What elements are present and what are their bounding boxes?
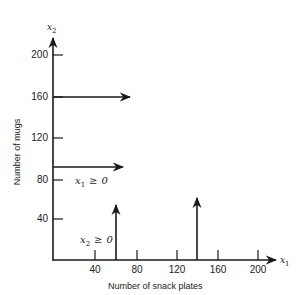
y-axis-variable: x2 (47, 22, 57, 35)
constraint-diagram (0, 0, 303, 295)
x-tick-label-120: 120 (162, 265, 192, 275)
x-tick-label-160: 160 (203, 265, 233, 275)
y-ticks (53, 55, 63, 219)
y-axis-title: Number of mugs (12, 107, 22, 197)
y-tick-label-200: 200 (18, 50, 48, 60)
annotation-x1-nonneg: x1≥0 (75, 175, 108, 189)
y-tick-label-80: 80 (18, 175, 48, 185)
y-tick-label-160: 160 (18, 92, 48, 102)
annotation-x2-nonneg: x2≥0 (80, 234, 113, 248)
y-tick-label-40: 40 (18, 214, 48, 224)
x-axis-variable: x1 (280, 255, 290, 268)
x-axis-title: Number of snack plates (108, 281, 203, 291)
x-tick-label-80: 80 (122, 265, 152, 275)
x-tick-label-40: 40 (80, 265, 110, 275)
x-ticks (95, 250, 258, 260)
x-tick-label-200: 200 (243, 265, 273, 275)
y-tick-label-120: 120 (18, 133, 48, 143)
